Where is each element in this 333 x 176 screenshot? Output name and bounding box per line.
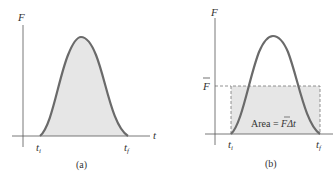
impulse-diagram: F t ti tf (a) F F ti tf Area = FΔt (b)	[0, 0, 333, 176]
panel-a: F t ti tf (a)	[12, 11, 157, 171]
panel-b-fbar-label: F	[202, 78, 210, 92]
panel-b-area-label: Area = FΔt	[251, 117, 296, 129]
panel-b-ti-label: ti	[228, 138, 233, 152]
svg-text:F: F	[202, 80, 210, 92]
svg-text:Area = FΔt: Area = FΔt	[251, 118, 296, 129]
panel-b-tf-label: tf	[316, 138, 322, 152]
panel-a-area-fill	[40, 37, 128, 136]
panel-a-x-axis-label: t	[153, 129, 157, 141]
panel-a-tf-label: tf	[124, 141, 130, 155]
panel-b-y-axis-label: F	[210, 6, 218, 18]
panel-a-y-axis-label: F	[17, 11, 25, 23]
panel-b-caption: (b)	[265, 158, 277, 170]
panel-a-ti-label: ti	[36, 141, 41, 155]
panel-a-caption: (a)	[76, 159, 87, 171]
panel-b: F F ti tf Area = FΔt (b)	[202, 6, 333, 170]
